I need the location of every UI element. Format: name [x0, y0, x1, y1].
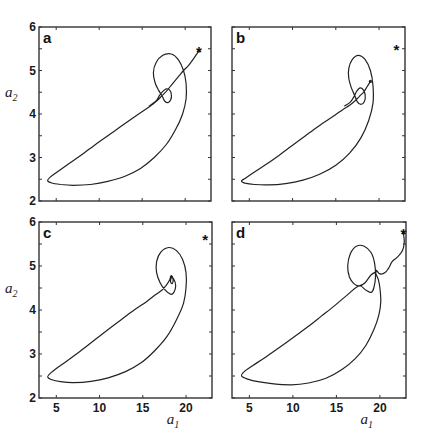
y-tick-label: 4 [29, 303, 36, 317]
trajectory-line [241, 233, 404, 385]
star-marker-icon: * [400, 225, 406, 242]
y-tick-label: 5 [29, 259, 36, 273]
star-marker-icon: * [202, 231, 208, 248]
y-tick-label: 4 [29, 107, 36, 121]
axes-frame [39, 27, 211, 201]
panel-c: 234565101520ca2a1* [5, 215, 212, 430]
x-axis-label: a1 [167, 411, 180, 430]
y-tick-label: 2 [29, 194, 36, 208]
panel-label: c [43, 224, 51, 241]
y-tick-label: 5 [29, 64, 36, 78]
y-tick-label: 6 [29, 215, 36, 229]
y-tick-label: 3 [29, 347, 36, 361]
figure: 23456aa2* b* 234565101520ca2a1* 5101520d… [0, 0, 428, 436]
trajectory-start-marker [170, 275, 173, 278]
x-tick-label: 10 [286, 401, 300, 415]
trajectory-line [242, 55, 374, 185]
star-marker-icon: * [196, 43, 202, 60]
x-tick-label: 15 [136, 401, 150, 415]
x-tick-label: 5 [53, 401, 60, 415]
panel-b: b* [232, 27, 405, 201]
panel-label: b [236, 29, 245, 46]
y-tick-label: 2 [29, 391, 36, 405]
x-tick-label: 20 [179, 401, 193, 415]
x-axis-label: a1 [361, 411, 374, 430]
panel-d: 5101520da1* [232, 222, 406, 430]
panel-a: 23456aa2* [5, 20, 211, 208]
trajectory-line [48, 247, 187, 382]
x-tick-label: 20 [373, 401, 387, 415]
y-tick-label: 3 [29, 151, 36, 165]
trajectory-start-marker [369, 80, 372, 83]
x-tick-label: 10 [93, 401, 107, 415]
x-tick-label: 5 [246, 401, 253, 415]
y-axis-label: a2 [5, 84, 18, 103]
y-tick-label: 6 [29, 20, 36, 34]
trajectory-line [48, 51, 199, 185]
star-marker-icon: * [393, 41, 399, 58]
panel-label: d [236, 224, 245, 241]
y-axis-label: a2 [5, 280, 18, 299]
x-tick-label: 15 [330, 401, 344, 415]
panel-label: a [43, 29, 52, 46]
